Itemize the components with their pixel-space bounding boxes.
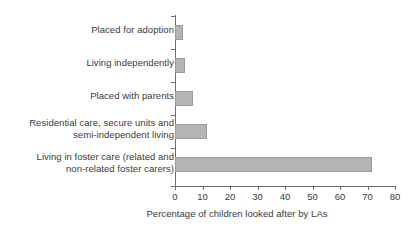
category-label-living-independently: Living independently bbox=[86, 57, 174, 69]
x-axis-tick-label: 30 bbox=[246, 191, 270, 202]
x-axis-tick bbox=[203, 186, 204, 190]
x-axis-title: Percentage of children looked after by L… bbox=[0, 208, 412, 219]
x-axis-tick-label: 50 bbox=[301, 191, 325, 202]
bar-foster-care bbox=[175, 157, 372, 172]
bar-living-independently bbox=[175, 58, 185, 73]
bar-residential-care bbox=[175, 124, 207, 139]
bar-chart: Placed for adoption Living independently… bbox=[0, 0, 412, 235]
category-label-foster-care: Living in foster care (related and non-r… bbox=[37, 151, 174, 174]
x-axis-tick bbox=[340, 186, 341, 190]
x-axis-tick-label: 70 bbox=[356, 191, 380, 202]
x-axis-tick-label: 20 bbox=[218, 191, 242, 202]
x-axis-tick bbox=[313, 186, 314, 190]
x-axis-tick bbox=[395, 186, 396, 190]
category-label-placed-with-parents: Placed with parents bbox=[90, 90, 174, 102]
plot-area bbox=[175, 16, 395, 185]
x-axis-tick bbox=[368, 186, 369, 190]
x-axis-tick-label: 0 bbox=[163, 191, 187, 202]
x-axis-tick bbox=[258, 186, 259, 190]
x-axis-tick bbox=[175, 186, 176, 190]
x-axis-tick bbox=[285, 186, 286, 190]
x-axis-tick-label: 80 bbox=[383, 191, 407, 202]
x-axis-tick-label: 60 bbox=[328, 191, 352, 202]
x-axis-tick bbox=[230, 186, 231, 190]
bar-placed-with-parents bbox=[175, 91, 193, 106]
bar-placed-for-adoption bbox=[175, 25, 183, 40]
category-label-residential-care: Residential care, secure units and semi-… bbox=[29, 117, 174, 140]
category-label-placed-for-adoption: Placed for adoption bbox=[91, 24, 174, 36]
x-axis-tick-label: 40 bbox=[273, 191, 297, 202]
x-axis-tick-label: 10 bbox=[191, 191, 215, 202]
